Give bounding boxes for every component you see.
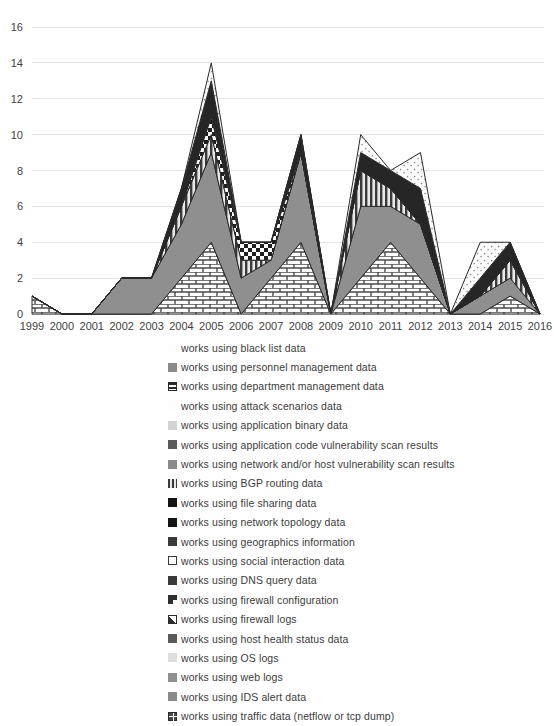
legend-item-label: works using IDS alert data	[181, 691, 306, 703]
legend-item-label: works using firewall logs	[181, 613, 297, 625]
legend-item-label: works using firewall configuration	[181, 594, 338, 606]
legend-item-label: works using black list data	[181, 342, 306, 354]
legend-swatch-icon	[168, 363, 177, 372]
legend-item[interactable]: works using firewall configuration	[0, 590, 554, 609]
legend-swatch-icon	[168, 421, 177, 430]
legend-item[interactable]: works using personnel management data	[0, 357, 554, 376]
legend-swatch-icon	[168, 692, 177, 701]
x-axis-tick-label: 2007	[259, 320, 283, 332]
x-axis-tick-label: 2000	[50, 320, 74, 332]
y-axis-tick-label: 12	[11, 93, 23, 105]
area-series-group	[32, 63, 540, 314]
legend-swatch-icon	[168, 712, 177, 721]
legend-item[interactable]: works using social interaction data	[0, 551, 554, 570]
legend-item[interactable]: works using geographics information	[0, 532, 554, 551]
legend-item-label: works using geographics information	[181, 536, 355, 548]
legend-item[interactable]: works using IDS alert data	[0, 687, 554, 706]
legend-swatch-icon	[168, 576, 177, 585]
x-axis-tick-label: 2010	[348, 320, 372, 332]
legend-item-label: works using department management data	[181, 380, 384, 392]
legend-item[interactable]: works using application binary data	[0, 416, 554, 435]
x-axis-tick-label: 2003	[139, 320, 163, 332]
y-axis-tick-label: 14	[11, 57, 23, 69]
legend-item-label: works using BGP routing data	[181, 477, 323, 489]
legend-swatch-icon	[168, 440, 177, 449]
x-axis-tick-label: 2012	[408, 320, 432, 332]
x-axis-tick-label: 2009	[319, 320, 343, 332]
y-axis-tick-label: 6	[17, 200, 23, 212]
legend-item[interactable]: works using DNS query data	[0, 571, 554, 590]
y-axis-tick-label: 2	[17, 272, 23, 284]
legend-item[interactable]: works using web logs	[0, 668, 554, 687]
x-axis-tick-label: 2013	[438, 320, 462, 332]
y-axis-tick-label: 10	[11, 129, 23, 141]
legend-swatch-icon	[168, 343, 177, 352]
x-axis-tick-label: 2005	[199, 320, 223, 332]
legend-item-label: works using network topology data	[181, 516, 345, 528]
y-axis-tick-label: 4	[17, 236, 23, 248]
legend-swatch-icon	[168, 498, 177, 507]
legend-item[interactable]: works using attack scenarios data	[0, 396, 554, 415]
legend-item-label: works using attack scenarios data	[181, 400, 342, 412]
x-axis-tick-label: 2001	[80, 320, 104, 332]
x-axis-tick-label: 1999	[20, 320, 44, 332]
x-axis-tick-label: 2014	[468, 320, 492, 332]
legend-item[interactable]: works using firewall logs	[0, 609, 554, 628]
chart-legend: works using black list dataworks using p…	[0, 338, 554, 726]
legend-item[interactable]: works using traffic data (netflow or tcp…	[0, 706, 554, 725]
legend-item[interactable]: works using black list data	[0, 338, 554, 357]
legend-swatch-icon	[168, 653, 177, 662]
legend-item-label: works using host health status data	[181, 633, 349, 645]
legend-item-label: works using traffic data (netflow or tcp…	[181, 710, 394, 722]
legend-item[interactable]: works using department management data	[0, 377, 554, 396]
legend-swatch-icon	[168, 460, 177, 469]
legend-item[interactable]: works using application code vulnerabili…	[0, 435, 554, 454]
y-axis-tick-label: 16	[11, 21, 23, 33]
legend-swatch-icon	[168, 401, 177, 410]
legend-item-label: works using application code vulnerabili…	[181, 439, 438, 451]
legend-item[interactable]: works using BGP routing data	[0, 474, 554, 493]
legend-item[interactable]: works using host health status data	[0, 629, 554, 648]
plot-area: 0246810121416 19992000200120022003200420…	[0, 0, 554, 340]
legend-item[interactable]: works using network and/or host vulnerab…	[0, 454, 554, 473]
legend-swatch-icon	[168, 382, 177, 391]
x-axis-tick-label: 2015	[498, 320, 522, 332]
legend-swatch-icon	[168, 518, 177, 527]
chart-canvas: 0246810121416 19992000200120022003200420…	[0, 0, 554, 340]
x-axis-tick-label: 2011	[379, 320, 403, 332]
legend-item-label: works using DNS query data	[181, 574, 317, 586]
legend-item-label: works using OS logs	[181, 652, 279, 664]
legend-item-label: works using personnel management data	[181, 361, 377, 373]
legend-swatch-icon	[168, 556, 177, 565]
x-axis-tick-label: 2008	[289, 320, 313, 332]
legend-swatch-icon	[168, 479, 177, 488]
legend-item[interactable]: works using file sharing data	[0, 493, 554, 512]
legend-item[interactable]: works using OS logs	[0, 648, 554, 667]
y-axis-tick-label: 0	[17, 308, 23, 320]
legend-swatch-icon	[168, 537, 177, 546]
legend-item-label: works using social interaction data	[181, 555, 344, 567]
x-axis-tick-label: 2016	[528, 320, 552, 332]
legend-item-label: works using file sharing data	[181, 497, 316, 509]
legend-item-label: works using application binary data	[181, 419, 348, 431]
x-axis-tick-label: 2002	[109, 320, 133, 332]
legend-swatch-icon	[168, 634, 177, 643]
y-axis-labels: 0246810121416	[11, 21, 23, 320]
legend-item-label: works using network and/or host vulnerab…	[181, 458, 455, 470]
x-axis-tick-label: 2006	[229, 320, 253, 332]
x-axis-labels: 1999200020012002200320042005200620072008…	[20, 320, 552, 332]
legend-swatch-icon	[168, 673, 177, 682]
y-axis-tick-label: 8	[17, 165, 23, 177]
x-axis-tick-label: 2004	[169, 320, 193, 332]
legend-swatch-icon	[168, 595, 177, 604]
legend-item-label: works using web logs	[181, 671, 283, 683]
legend-item[interactable]: works using network topology data	[0, 513, 554, 532]
legend-swatch-icon	[168, 615, 177, 624]
